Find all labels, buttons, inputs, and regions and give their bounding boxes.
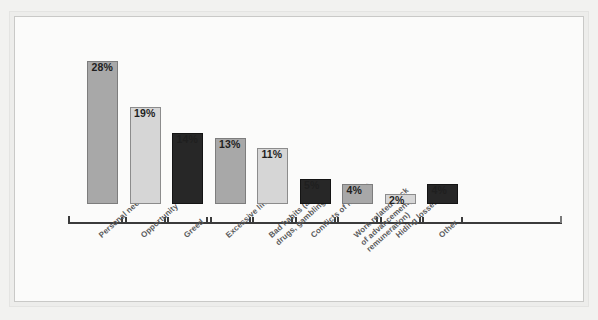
x-axis-tick-8	[380, 217, 382, 223]
x-axis-category-label-3: Greed	[182, 217, 206, 240]
x-axis-tick-4	[210, 217, 212, 223]
bar-value-label-7: 4%	[347, 184, 362, 196]
x-axis-tick-9	[422, 217, 424, 223]
bar-value-label-4: 13%	[219, 138, 240, 150]
bar-value-label-6: 5%	[304, 179, 319, 191]
bar-value-label-8: 2%	[389, 194, 404, 206]
bar-2	[130, 107, 161, 204]
bar-1	[87, 61, 118, 204]
bar-value-label-3: 14%	[177, 133, 198, 145]
scanned-page: 28%Personal need19%Opportunity14%Greed13…	[0, 0, 598, 320]
x-axis-right-endcap	[560, 216, 562, 223]
cropped-caption-text	[36, 0, 336, 4]
x-axis-tick-5	[252, 217, 254, 223]
bar-value-label-5: 11%	[262, 148, 283, 160]
x-axis-tick-6	[295, 217, 297, 223]
bar-value-label-9: 4%	[432, 184, 447, 196]
x-axis-line	[68, 222, 562, 224]
x-axis-tick-3	[167, 217, 169, 223]
x-axis-tick-after-3	[206, 217, 208, 223]
bar-value-label-2: 19%	[134, 107, 155, 119]
figure-outer-frame: 28%Personal need19%Opportunity14%Greed13…	[9, 11, 589, 307]
x-axis-tick-after-9	[461, 217, 463, 223]
x-axis-left-endcap	[68, 216, 70, 224]
bar-chart-plot-area: 28%Personal need19%Opportunity14%Greed13…	[15, 17, 583, 301]
x-axis-tick-7	[337, 217, 339, 223]
bar-value-label-1: 28%	[92, 61, 113, 73]
x-axis-tick-2	[125, 217, 127, 223]
figure-inner-frame: 28%Personal need19%Opportunity14%Greed13…	[14, 16, 584, 302]
x-axis-category-label-2: Opportunity	[139, 202, 180, 240]
